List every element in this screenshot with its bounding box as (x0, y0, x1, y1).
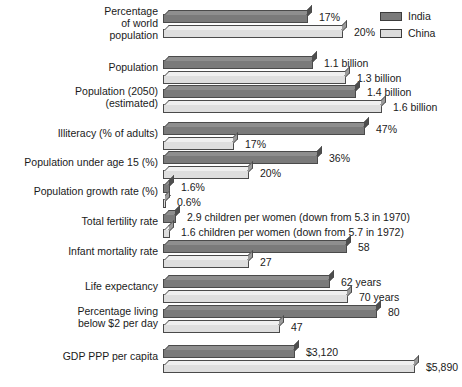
bar-top-face (164, 166, 253, 171)
bar-china: 47 (163, 320, 462, 334)
bar-body-india (163, 244, 347, 253)
bar-china: 17% (163, 137, 462, 151)
bar-value-label-india: 17% (319, 12, 340, 23)
row-label-line: of world (0, 17, 158, 29)
bar-india: 2.9 children per women (down from 5.3 in… (163, 210, 462, 224)
bar-value-label-india: 58 (358, 242, 370, 253)
bar-china: 1.3 billion (163, 71, 462, 85)
row-label-line: Infant mortality rate (0, 245, 158, 257)
bar-india: 36% (163, 151, 462, 165)
bar-top-face (164, 100, 386, 105)
row-bars: 47%17% (163, 122, 462, 152)
bar-end-cap (329, 270, 334, 282)
bar-body-india (163, 126, 365, 135)
row-label: Total fertility rate (0, 215, 158, 227)
row-label-line: below $2 per day (0, 317, 158, 329)
row-label-line: Population growth rate (%) (0, 185, 158, 197)
row-bars: 36%20% (163, 151, 462, 181)
row-label-line: Illiteracy (% of adults) (0, 127, 158, 139)
bar-end-cap (307, 5, 312, 17)
row-label: Infant mortality rate (0, 245, 158, 257)
bar-value-label-india: 47% (376, 124, 397, 135)
bar-india: 58 (163, 240, 462, 254)
bar-body-india (163, 349, 295, 358)
bar-india: 1.6% (163, 180, 462, 194)
bar-body-china (163, 324, 280, 333)
bar-china: 0.6% (163, 195, 462, 209)
bar-top-face (164, 255, 253, 260)
bar-india: 1.1 billion (163, 56, 462, 70)
bar-end-cap (294, 340, 299, 352)
bar-value-label-china: 20% (354, 27, 375, 38)
bar-value-label-india: 1.1 billion (324, 58, 368, 69)
row-bars: 1.1 billion1.3 billion (163, 56, 462, 86)
bar-body-india (163, 60, 313, 69)
bar-china: 20% (163, 166, 462, 180)
row-label: Illiteracy (% of adults) (0, 127, 158, 139)
bar-body-india (163, 14, 308, 23)
bar-body-india (163, 279, 330, 288)
bar-india: 47% (163, 122, 462, 136)
row-label: GDP PPP per capita (0, 350, 158, 362)
bar-top-face (164, 360, 419, 365)
bar-top-face (164, 345, 299, 350)
bar-value-label-china: 1.3 billion (357, 73, 401, 84)
bar-china: 27 (163, 255, 462, 269)
bar-body-india (163, 309, 377, 318)
bar-value-label-china: 1.6 children per women (down from 5.7 in… (181, 227, 404, 238)
bar-body-china (163, 229, 170, 238)
row-label-line: Population under age 15 (%) (0, 156, 158, 168)
row-bars: 5827 (163, 240, 462, 270)
bar-china: 1.6 billion (163, 100, 462, 114)
bar-value-label-china: 17% (245, 139, 266, 150)
bar-top-face (164, 240, 351, 245)
bar-india: 80 (163, 305, 462, 319)
row-bars: 1.4 billion1.6 billion (163, 85, 462, 115)
row-bars: 1.6%0.6% (163, 180, 462, 210)
row-label: Population (2050)(estimated) (0, 85, 158, 109)
row-bars: $3,120$5,890 (163, 345, 462, 375)
comparison-bar-chart: India China Percentageof worldpopulation… (0, 0, 462, 387)
bar-body-india (163, 89, 356, 98)
bar-top-face (164, 25, 347, 30)
bar-body-china (163, 29, 343, 38)
row-label-line: Percentage living (0, 305, 158, 317)
row-label: Population growth rate (%) (0, 185, 158, 197)
bar-body-china (163, 259, 249, 268)
bar-top-face (164, 151, 322, 156)
bar-china: 20% (163, 25, 462, 39)
bar-end-cap (364, 117, 369, 129)
row-label: Population (0, 61, 158, 73)
bar-value-label-china: $5,890 (426, 362, 458, 373)
bar-top-face (164, 56, 317, 61)
bar-china: 1.6 children per women (down from 5.7 in… (163, 225, 462, 239)
bar-top-face (164, 275, 334, 280)
bar-value-label-india: 36% (329, 153, 350, 164)
bar-body-india (163, 155, 318, 164)
bar-top-face (164, 290, 352, 295)
bar-india: 17% (163, 10, 462, 24)
bar-value-label-china: 20% (260, 168, 281, 179)
bar-body-china (163, 364, 415, 373)
bar-china: $5,890 (163, 360, 462, 374)
row-label: Percentageof worldpopulation (0, 5, 158, 42)
bar-value-label-china: 1.6 billion (393, 102, 437, 113)
row-label-line: Total fertility rate (0, 215, 158, 227)
bar-body-china (163, 104, 382, 113)
bar-value-label-india: 80 (388, 307, 400, 318)
bar-value-label-china: 0.6% (177, 197, 201, 208)
bar-india: 1.4 billion (163, 85, 462, 99)
bar-top-face (164, 10, 312, 15)
bar-india: 62 years (163, 275, 462, 289)
bar-value-label-india: 2.9 children per women (down from 5.3 in… (187, 212, 410, 223)
bar-value-label-india: $3,120 (306, 347, 338, 358)
bar-china: 70 years (163, 290, 462, 304)
row-bars: 8047 (163, 305, 462, 335)
bar-body-china (163, 141, 234, 150)
bar-top-face (164, 85, 360, 90)
bar-top-face (164, 71, 350, 76)
bar-value-label-china: 27 (260, 257, 272, 268)
bar-value-label-india: 1.6% (181, 182, 205, 193)
bar-end-cap (312, 51, 317, 63)
bar-top-face (164, 305, 381, 310)
